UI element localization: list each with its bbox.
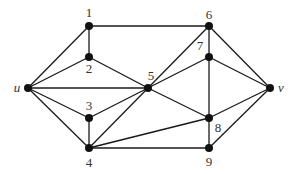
node-1 [85,22,93,30]
node-label-v: v [278,80,284,95]
node-label-3: 3 [86,98,93,113]
edge-2-5 [89,57,148,88]
node-label-8: 8 [215,120,222,135]
node-4 [85,144,93,152]
edge-8-v [209,88,270,118]
edge-u-2 [28,57,89,88]
node-3 [85,114,93,122]
node-9 [205,144,213,152]
edge-5-7 [148,57,209,88]
node-7 [205,53,213,61]
edge-7-v [209,57,270,88]
edge-9-v [209,88,270,148]
node-8 [205,114,213,122]
node-2 [85,53,93,61]
edge-3-5 [89,88,148,118]
edge-6-v [209,26,270,88]
node-u [24,84,32,92]
node-label-4: 4 [86,155,93,170]
node-v [266,84,274,92]
node-label-u: u [14,80,21,95]
node-6 [205,22,213,30]
node-label-2: 2 [86,61,93,76]
graph-diagram: 12u53467v89 [0,0,295,174]
node-label-5: 5 [148,68,155,83]
edge-u-1 [28,26,89,88]
node-label-1: 1 [86,5,93,20]
edge-5-8 [148,88,209,118]
edge-u-4 [28,88,89,148]
node-label-7: 7 [197,38,204,53]
edge-4-8 [89,118,209,148]
edge-4-5 [89,88,148,148]
edge-5-6 [148,26,209,88]
node-label-9: 9 [206,154,213,169]
edge-u-3 [28,88,89,118]
node-5 [144,84,152,92]
node-label-6: 6 [206,7,213,22]
